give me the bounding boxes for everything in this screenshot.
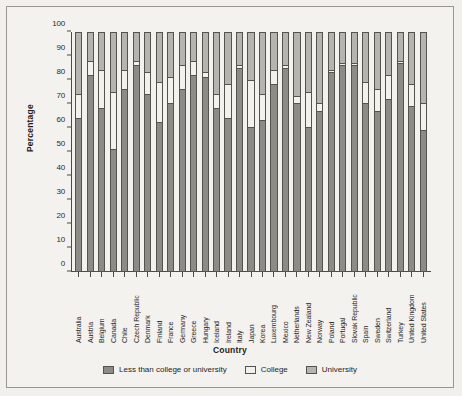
stacked-bar[interactable] — [259, 32, 266, 272]
x-axis-ticks — [71, 272, 431, 278]
x-tick-slot — [372, 272, 383, 278]
bar-segment-less-than-college — [111, 150, 116, 271]
bar-segment-university — [260, 33, 265, 95]
bar-segment-college — [122, 71, 127, 90]
bar-segment-university — [421, 33, 426, 104]
stacked-bar[interactable] — [270, 32, 277, 272]
stacked-bar[interactable] — [213, 32, 220, 272]
stacked-bar[interactable] — [179, 32, 186, 272]
bar-segment-less-than-college — [214, 109, 219, 271]
x-tick-slot — [142, 272, 153, 278]
bar-segment-less-than-college — [363, 104, 368, 271]
bar-slot — [291, 32, 302, 272]
x-tick-slot — [337, 272, 348, 278]
x-label-slot: Canada — [107, 279, 118, 343]
bar-segment-college — [260, 95, 265, 121]
x-tick-slot — [165, 272, 176, 278]
stacked-bar[interactable] — [133, 32, 140, 272]
stacked-bar[interactable] — [236, 32, 243, 272]
stacked-bar[interactable] — [247, 32, 254, 272]
stacked-bar[interactable] — [397, 32, 404, 272]
figure-panel: Percentage 0102030405060708090100 Austra… — [6, 6, 454, 388]
x-tick-label: Greece — [190, 279, 197, 343]
stacked-bar[interactable] — [98, 32, 105, 272]
stacked-bar[interactable] — [121, 32, 128, 272]
stacked-bar[interactable] — [328, 32, 335, 272]
stacked-bar[interactable] — [282, 32, 289, 272]
stacked-bar[interactable] — [224, 32, 231, 272]
bar-slot — [314, 32, 325, 272]
x-tick-label: Mexico — [282, 279, 289, 343]
legend-item[interactable]: College — [245, 365, 288, 374]
stacked-bar[interactable] — [362, 32, 369, 272]
bar-segment-less-than-college — [329, 73, 334, 271]
stacked-bar[interactable] — [339, 32, 346, 272]
x-label-slot: Spain — [360, 279, 371, 343]
bar-segment-university — [134, 33, 139, 62]
bar-slot — [280, 32, 291, 272]
stacked-bar[interactable] — [190, 32, 197, 272]
x-tick-label: Korea — [259, 279, 266, 343]
stacked-bar[interactable] — [316, 32, 323, 272]
stacked-bar[interactable] — [351, 32, 358, 272]
x-tick-slot — [349, 272, 360, 278]
x-tick-mark — [90, 272, 91, 277]
bar-slot — [165, 32, 176, 272]
legend-swatch-icon — [103, 366, 114, 374]
x-tick-label: Australia — [75, 279, 82, 343]
x-label-slot: Belgium — [96, 279, 107, 343]
bar-slot — [199, 32, 210, 272]
stacked-bar[interactable] — [374, 32, 381, 272]
bar-segment-college — [248, 81, 253, 129]
x-tick-mark — [147, 272, 148, 277]
y-tick-label: 80 — [57, 67, 72, 76]
stacked-bar[interactable] — [202, 32, 209, 272]
x-tick-slot — [211, 272, 222, 278]
x-label-slot: Austria — [84, 279, 95, 343]
stacked-bar[interactable] — [420, 32, 427, 272]
stacked-bar[interactable] — [75, 32, 82, 272]
bar-segment-college — [191, 62, 196, 76]
bar-segment-less-than-college — [260, 121, 265, 271]
x-tick-mark — [400, 272, 401, 277]
bar-segment-less-than-college — [225, 119, 230, 271]
x-label-slot: Iceland — [211, 279, 222, 343]
stacked-bar[interactable] — [408, 32, 415, 272]
legend-item[interactable]: Less than college or university — [103, 365, 227, 374]
stacked-bar[interactable] — [87, 32, 94, 272]
stacked-bar[interactable] — [385, 32, 392, 272]
x-tick-slot — [326, 272, 337, 278]
legend-item[interactable]: University — [306, 365, 357, 374]
x-tick-slot — [84, 272, 95, 278]
bar-segment-college — [76, 95, 81, 119]
bar-segment-university — [237, 33, 242, 66]
plot-area: 0102030405060708090100 AustraliaAustriaB… — [71, 32, 431, 272]
x-tick-mark — [342, 272, 343, 277]
x-tick-mark — [170, 272, 171, 277]
x-tick-mark — [308, 272, 309, 277]
stacked-bar[interactable] — [110, 32, 117, 272]
stacked-bar[interactable] — [305, 32, 312, 272]
bar-segment-college — [306, 93, 311, 129]
bar-segment-less-than-college — [398, 64, 403, 271]
x-tick-slot — [130, 272, 141, 278]
bar-segment-college — [409, 85, 414, 106]
bar-slot — [372, 32, 383, 272]
bar-segment-college — [421, 104, 426, 130]
x-tick-label: New Zealand — [305, 279, 312, 343]
stacked-bar[interactable] — [156, 32, 163, 272]
x-tick-mark — [239, 272, 240, 277]
stacked-bar[interactable] — [144, 32, 151, 272]
bar-segment-less-than-college — [283, 69, 288, 271]
stacked-bar[interactable] — [293, 32, 300, 272]
x-tick-slot — [199, 272, 210, 278]
x-tick-slot — [291, 272, 302, 278]
bar-segment-university — [214, 33, 219, 95]
bar-segment-college — [180, 66, 185, 90]
stacked-bar[interactable] — [167, 32, 174, 272]
x-tick-label: Chile — [121, 279, 128, 343]
bar-slot — [326, 32, 337, 272]
bar-slot — [337, 32, 348, 272]
bar-segment-less-than-college — [180, 90, 185, 271]
bar-segment-less-than-college — [134, 66, 139, 271]
